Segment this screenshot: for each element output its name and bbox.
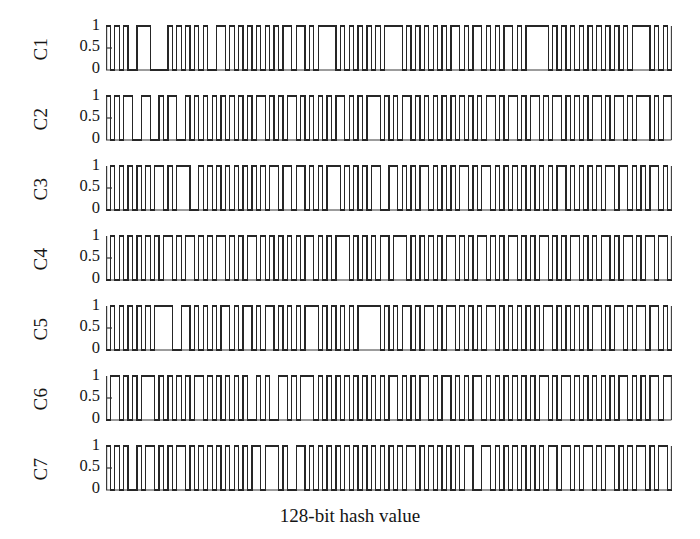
plot-area-c7 [106, 442, 672, 494]
y-tick-1: 1 [92, 157, 100, 174]
plot-area-c5 [106, 302, 672, 354]
y-tick-1: 1 [92, 87, 100, 104]
x-axis-label: 128-bit hash value [0, 505, 700, 527]
row-label-c7: C7 [22, 452, 60, 486]
y-axis-tick-labels: 10.50 [58, 88, 100, 146]
y-tick-0: 0 [92, 340, 100, 357]
row-label-c6: C6 [22, 382, 60, 416]
row-label-c5: C5 [22, 312, 60, 346]
waveform-path [106, 236, 672, 280]
y-tick-0: 0 [92, 200, 100, 217]
waveform-row-c4: C410.50 [0, 228, 700, 290]
waveform-svg [106, 232, 672, 284]
waveform-svg [106, 302, 672, 354]
y-tick-0-5: 0.5 [79, 458, 100, 475]
waveform-row-c2: C210.50 [0, 88, 700, 150]
y-tick-0-5: 0.5 [79, 108, 100, 125]
y-tick-0-5: 0.5 [79, 178, 100, 195]
y-tick-0: 0 [92, 130, 100, 147]
waveform-path [106, 376, 672, 420]
y-tick-0: 0 [92, 270, 100, 287]
waveform-row-c6: C610.50 [0, 368, 700, 430]
y-tick-0-5: 0.5 [79, 248, 100, 265]
plot-area-c1 [106, 22, 672, 74]
y-tick-1: 1 [92, 17, 100, 34]
y-tick-0: 0 [92, 60, 100, 77]
waveform-path [106, 96, 672, 140]
row-label-c3: C3 [22, 172, 60, 206]
waveform-svg [106, 442, 672, 494]
waveform-row-c3: C310.50 [0, 158, 700, 220]
y-axis-tick-labels: 10.50 [58, 158, 100, 216]
y-tick-1: 1 [92, 437, 100, 454]
y-tick-1: 1 [92, 227, 100, 244]
plot-area-c4 [106, 232, 672, 284]
waveform-path [106, 446, 672, 490]
y-axis-tick-labels: 10.50 [58, 368, 100, 426]
waveform-row-c7: C710.50 [0, 438, 700, 500]
plot-area-c2 [106, 92, 672, 144]
hash-value-waveform-figure: C110.50C210.50C310.50C410.50C510.50C610.… [0, 0, 700, 539]
waveform-svg [106, 372, 672, 424]
y-tick-1: 1 [92, 297, 100, 314]
y-tick-0-5: 0.5 [79, 388, 100, 405]
y-tick-0: 0 [92, 480, 100, 497]
axis-frame [107, 26, 672, 70]
waveform-row-c5: C510.50 [0, 298, 700, 360]
plot-area-c3 [106, 162, 672, 214]
waveform-path [106, 166, 672, 210]
waveform-row-c1: C110.50 [0, 18, 700, 80]
y-axis-tick-labels: 10.50 [58, 228, 100, 286]
y-tick-0: 0 [92, 410, 100, 427]
row-label-c4: C4 [22, 242, 60, 276]
y-tick-0-5: 0.5 [79, 38, 100, 55]
row-label-c2: C2 [22, 102, 60, 136]
waveform-svg [106, 22, 672, 74]
plot-area-c6 [106, 372, 672, 424]
waveform-path [106, 306, 672, 350]
y-axis-tick-labels: 10.50 [58, 298, 100, 356]
y-tick-1: 1 [92, 367, 100, 384]
y-axis-tick-labels: 10.50 [58, 18, 100, 76]
row-label-c1: C1 [22, 32, 60, 66]
y-axis-tick-labels: 10.50 [58, 438, 100, 496]
waveform-svg [106, 162, 672, 214]
waveform-svg [106, 92, 672, 144]
y-tick-0-5: 0.5 [79, 318, 100, 335]
waveform-path [106, 26, 672, 70]
